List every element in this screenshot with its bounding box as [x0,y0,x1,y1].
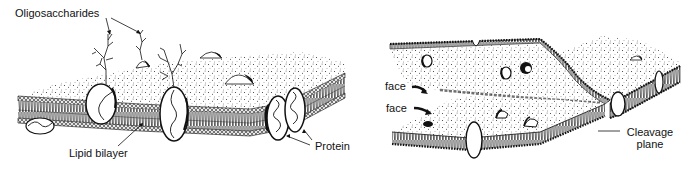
label-oligosaccharides: Oligosaccharides [15,7,99,19]
peripheral-protein [26,118,54,134]
label-protein: Protein [315,140,350,152]
label-cleavage-plane: Cleavage plane [620,126,680,150]
left-membrane-panel [18,18,345,146]
label-lipid-bilayer: Lipid bilayer [69,147,128,159]
oligosaccharide-chain-3 [136,30,146,60]
lower-integral-protein [466,122,482,158]
label-cleavage-line2: plane [620,138,680,150]
junction-integral-protein [611,92,625,116]
oligosaccharides-leader-2 [111,18,140,33]
intact-integral-protein [655,71,663,93]
label-face-lower: face [386,102,407,114]
label-cleavage-line1: Cleavage [620,126,680,138]
protein-leader-1 [287,136,310,145]
label-face-upper: face [385,80,406,92]
